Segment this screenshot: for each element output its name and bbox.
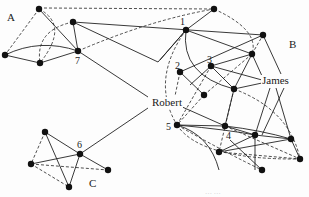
node [231,86,237,92]
edge [45,132,69,187]
edge [160,30,186,60]
edge [211,66,262,80]
node-number-6: 6 [77,140,82,150]
figure-caption: … … [205,188,221,196]
edge [263,35,281,74]
node [37,60,43,66]
dashed-edge [165,30,186,125]
edge [73,22,160,28]
network-diagram: A B C James Robert 1 2 3 4 5 6 7 … … [0,0,309,197]
region-label-c: C [89,178,96,189]
edge [225,126,291,139]
node [249,51,255,57]
node-7 [75,48,81,54]
region-label-a: A [7,12,15,23]
dashed-edge [31,164,69,187]
person-label-james: James [261,75,290,86]
edge [230,140,262,170]
node [66,184,72,190]
edge [180,106,225,126]
node [211,6,217,12]
node-number-5: 5 [166,122,171,132]
dashed-edge [44,8,214,9]
edge [39,9,78,51]
node [260,32,266,38]
edge [255,88,270,135]
edge [186,9,214,30]
edge [80,108,148,154]
node-4 [222,123,228,129]
edge [80,154,108,170]
edge [5,45,78,55]
node-number-4: 4 [226,131,231,141]
dashed-edge [177,125,262,170]
node-number-3: 3 [207,55,212,65]
edge [276,88,291,139]
edge [40,51,78,63]
node-number-2: 2 [175,61,180,71]
node [36,6,42,12]
edge [190,66,211,85]
node [259,167,265,173]
node [252,132,258,138]
node [2,52,8,58]
node [297,156,303,162]
edge [291,139,300,159]
edge [5,55,40,63]
node [42,129,48,135]
person-label-robert: Robert [151,97,183,108]
edge [255,135,291,139]
node-number-1: 1 [180,17,185,27]
edge [177,125,219,170]
node [28,161,34,167]
edge [78,51,148,97]
dashed-edge [31,164,108,170]
node [201,92,207,98]
node [70,19,76,25]
node [105,167,111,173]
node [216,149,222,155]
edge [69,154,80,187]
node-number-7: 7 [75,56,80,66]
edge [234,83,262,89]
node-5 [174,122,180,128]
region-label-b: B [289,39,296,50]
node-1 [183,27,189,33]
node-6 [77,151,83,157]
edge [234,54,252,89]
dashed-edge [31,132,45,164]
edge [219,135,255,152]
edge [252,54,262,76]
node [288,136,294,142]
dashed-edge [175,72,180,96]
